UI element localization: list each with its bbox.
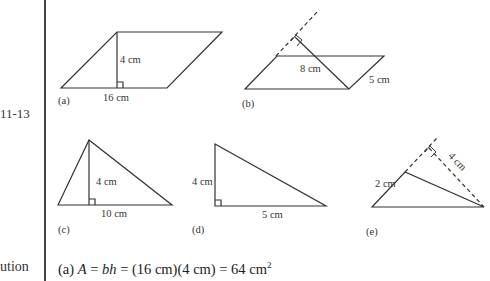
fig-b-caption: (b) (242, 98, 255, 110)
fig-c-caption: (c) (58, 224, 70, 236)
fig-d-caption: (d) (192, 224, 205, 236)
fig-c-base-label: 10 cm (101, 208, 127, 219)
fig-b-side-label: 5 cm (369, 74, 390, 85)
solution-formula: bh (102, 261, 117, 277)
fig-e-height-label: 4 cm (446, 150, 468, 172)
figure-b-parallelogram (245, 11, 384, 89)
figure-a-parallelogram (61, 32, 222, 88)
fig-a-height-label: 4 cm (120, 54, 141, 65)
fig-e-caption: (e) (366, 226, 378, 238)
figure-c-triangle (58, 140, 172, 205)
fig-b-height-label: 8 cm (300, 63, 321, 74)
solution-var: A (78, 261, 87, 277)
fig-a-base-label: 16 cm (103, 92, 129, 103)
solution-line: (a) A = bh = (16 cm)(4 cm) = 64 cm2 (58, 260, 271, 278)
fig-c-height-label: 4 cm (96, 176, 117, 187)
solution-eq: = (87, 261, 102, 277)
fig-d-base-label: 5 cm (262, 209, 283, 220)
fig-d-height-label: 4 cm (192, 176, 213, 187)
fig-e-side-label: 2 cm (375, 178, 396, 189)
solution-part: (a) (58, 261, 74, 277)
fig-a-caption: (a) (58, 95, 70, 107)
solution-calc: = (16 cm)(4 cm) = 64 cm (117, 261, 267, 277)
solution-exponent: 2 (267, 260, 272, 270)
figure-d-triangle (215, 144, 326, 206)
geometry-figures: 4 cm 16 cm (a) 8 cm 5 cm (b) 4 cm 10 cm … (0, 0, 490, 281)
figure-e-triangle (372, 138, 484, 207)
